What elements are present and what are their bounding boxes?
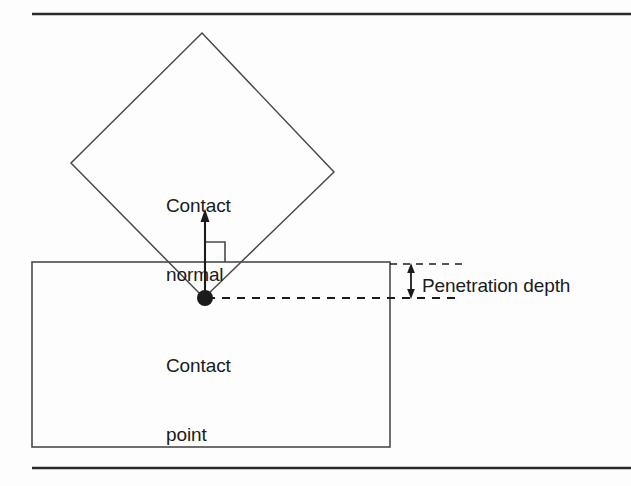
contact-normal-label: Contact normal xyxy=(166,148,231,332)
contact-point-label-line1: Contact xyxy=(166,354,231,377)
penetration-depth-label: Penetration depth xyxy=(422,274,570,297)
contact-point-label: Contact point xyxy=(166,308,231,486)
contact-normal-label-line1: Contact xyxy=(166,194,231,217)
contact-diagram-canvas xyxy=(0,0,631,486)
contact-point-label-line2: point xyxy=(166,423,231,446)
contact-diagram-figure: Contact normal Contact point Penetration… xyxy=(0,0,631,486)
contact-normal-label-line2: normal xyxy=(166,263,231,286)
